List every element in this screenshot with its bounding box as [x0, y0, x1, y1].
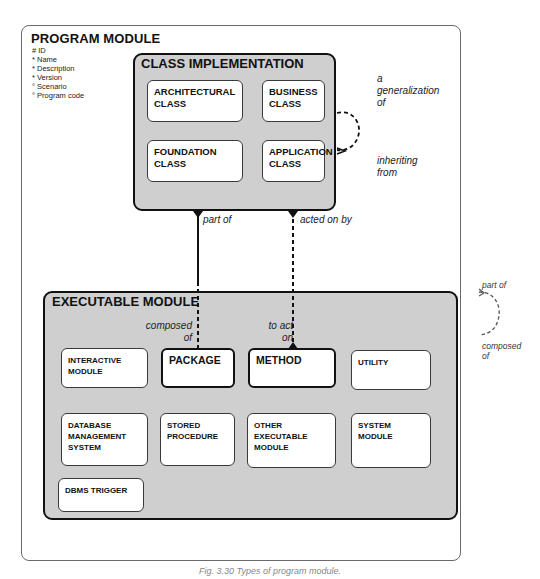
dbms-trigger-box[interactable]: DBMS TRIGGER — [58, 478, 144, 512]
box-label-line: CLASS — [154, 158, 242, 170]
box-label-line: OTHER — [254, 420, 335, 431]
label-line: composed — [482, 341, 521, 351]
pm-part-of-label: part of — [482, 280, 506, 290]
class-implementation-entity[interactable] — [133, 53, 336, 211]
attribute-description: * Description — [32, 64, 84, 73]
pm-self-loop-line — [479, 292, 499, 335]
label-line: from — [377, 167, 418, 179]
pm-crowfoot-icon — [479, 289, 484, 296]
program-module-self-relationship[interactable] — [479, 289, 499, 335]
box-label-line: CLASS — [269, 158, 324, 170]
box-label-line: PROCEDURE — [167, 431, 234, 442]
box-label-line: INTERACTIVE — [68, 355, 147, 366]
attribute-scenario: ° Scenario — [32, 82, 84, 91]
box-label-line: PACKAGE — [169, 355, 233, 367]
box-label-line: METHOD — [256, 355, 334, 367]
pm-composed-of-label: composed of — [482, 341, 521, 361]
box-label-line: SYSTEM — [358, 420, 430, 431]
box-label-line: CLASS — [269, 98, 324, 110]
attribute-version: * Version — [32, 73, 84, 82]
figure-caption: Fig. 3.30 Types of program module. — [0, 566, 540, 576]
box-label-line: APPLICATION — [269, 146, 324, 158]
generalization-of-label: a generalization of — [377, 73, 439, 109]
box-label-line: MODULE — [358, 431, 430, 442]
box-label-line: CLASS — [154, 98, 242, 110]
business-class-box[interactable]: BUSINESS CLASS — [262, 80, 325, 122]
box-label-line: DBMS TRIGGER — [65, 485, 143, 496]
stored-procedure-box[interactable]: STORED PROCEDURE — [160, 413, 235, 466]
label-line: a — [377, 73, 439, 85]
composed-of-label: composed of — [130, 320, 192, 344]
box-label-line: MODULE — [68, 366, 147, 377]
acted-on-by-label: acted on by — [300, 214, 352, 226]
foundation-class-box[interactable]: FOUNDATION CLASS — [147, 140, 243, 182]
method-box[interactable]: METHOD — [248, 348, 336, 388]
other-executable-module-box[interactable]: OTHER EXECUTABLE MODULE — [247, 413, 336, 468]
database-management-system-box[interactable]: DATABASE MANAGEMENT SYSTEM — [61, 413, 148, 466]
program-module-attributes: # ID * Name * Description * Version ° Sc… — [32, 46, 84, 101]
box-label-line: UTILITY — [358, 357, 430, 368]
utility-box[interactable]: UTILITY — [351, 350, 431, 390]
attribute-id: # ID — [32, 46, 84, 55]
executable-module-title: EXECUTABLE MODULE — [52, 294, 199, 309]
box-label-line: ARCHITECTURAL — [154, 86, 242, 98]
system-module-box[interactable]: SYSTEM MODULE — [351, 413, 431, 468]
box-label-line: DATABASE — [68, 420, 147, 431]
attribute-program-code: ° Program code — [32, 91, 84, 100]
package-box[interactable]: PACKAGE — [161, 348, 235, 388]
interactive-module-box[interactable]: INTERACTIVE MODULE — [61, 348, 148, 388]
box-label-line: EXECUTABLE — [254, 431, 335, 442]
label-line: of — [482, 351, 521, 361]
label-line: on — [250, 332, 293, 344]
program-module-title: PROGRAM MODULE — [31, 31, 160, 46]
application-class-box[interactable]: APPLICATION CLASS — [262, 140, 325, 182]
inheriting-from-label: inheriting from — [377, 155, 418, 179]
box-label-line: STORED — [167, 420, 234, 431]
label-line: to act — [250, 320, 293, 332]
label-line: of — [377, 97, 439, 109]
box-label-line: MANAGEMENT — [68, 431, 147, 442]
label-line: of — [130, 332, 192, 344]
architectural-class-box[interactable]: ARCHITECTURAL CLASS — [147, 80, 243, 122]
to-act-on-label: to act on — [250, 320, 293, 344]
box-label-line: SYSTEM — [68, 442, 147, 453]
box-label-line: FOUNDATION — [154, 146, 242, 158]
box-label-line: MODULE — [254, 442, 335, 453]
label-line: composed — [130, 320, 192, 332]
label-line: inheriting — [377, 155, 418, 167]
label-line: generalization — [377, 85, 439, 97]
class-implementation-title: CLASS IMPLEMENTATION — [141, 56, 304, 71]
attribute-name: * Name — [32, 55, 84, 64]
box-label-line: BUSINESS — [269, 86, 324, 98]
part-of-label: part of — [203, 214, 231, 226]
